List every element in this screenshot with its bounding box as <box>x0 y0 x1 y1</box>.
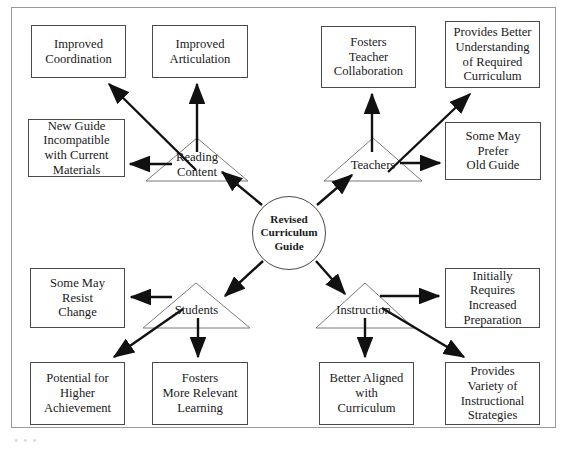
box-fosters-more-relevant-learning-label: FostersMore RelevantLearning <box>156 371 244 415</box>
box-improved-coordination-label: ImprovedCoordination <box>35 37 122 66</box>
box-fosters-more-relevant-learning: FostersMore RelevantLearning <box>152 362 248 425</box>
box-some-may-prefer-old-guide: Some MayPreferOld Guide <box>445 122 541 180</box>
box-provides-better-understanding: Provides BetterUnderstandingof RequiredC… <box>445 21 540 88</box>
triangle-label-reading-content: ReadingContent <box>146 150 248 180</box>
box-better-aligned-with-curriculum: Better AlignedwithCurriculum <box>319 362 414 425</box>
box-new-guide-incompatible: New GuideIncompatiblewith CurrentMateria… <box>28 119 125 177</box>
triangle-label-teachers: Teachers <box>324 158 422 173</box>
box-potential-for-higher-achievement-label: Potential forHigherAchievement <box>34 371 121 415</box>
triangle-label-instruction: Instruction <box>313 303 414 318</box>
box-provides-variety-of-instructional-strategies-label: ProvidesVariety ofInstructionalStrategie… <box>449 364 536 423</box>
box-some-may-resist-change-label: Some MayResistChange <box>34 276 121 320</box>
center-node-label: RevisedCurriculumGuide <box>260 213 317 253</box>
box-provides-better-understanding-label: Provides BetterUnderstandingof RequiredC… <box>449 25 536 84</box>
box-fosters-teacher-collaboration-label: FostersTeacherCollaboration <box>325 35 412 79</box>
box-initially-requires-increased-preparation-label: InitiallyRequiresIncreasedPreparation <box>449 269 536 328</box>
diagram-canvas: RevisedCurriculumGuide ReadingContent Te… <box>0 0 568 452</box>
triangle-label-students: Students <box>143 303 250 318</box>
box-improved-articulation-label: ImprovedArticulation <box>156 37 244 66</box>
center-node-revised-curriculum-guide: RevisedCurriculumGuide <box>252 196 326 270</box>
box-potential-for-higher-achievement: Potential forHigherAchievement <box>30 362 125 425</box>
box-initially-requires-increased-preparation: InitiallyRequiresIncreasedPreparation <box>445 268 540 328</box>
box-provides-variety-of-instructional-strategies: ProvidesVariety ofInstructionalStrategie… <box>445 362 540 425</box>
box-improved-coordination: ImprovedCoordination <box>31 25 126 78</box>
box-fosters-teacher-collaboration: FostersTeacherCollaboration <box>321 26 416 88</box>
box-some-may-prefer-old-guide-label: Some MayPreferOld Guide <box>449 129 537 173</box>
box-new-guide-incompatible-label: New GuideIncompatiblewith CurrentMateria… <box>32 119 121 178</box>
box-better-aligned-with-curriculum-label: Better AlignedwithCurriculum <box>323 371 410 415</box>
box-some-may-resist-change: Some MayResistChange <box>30 268 125 328</box>
box-improved-articulation: ImprovedArticulation <box>152 25 248 78</box>
scan-artifact-text: • • • <box>14 434 194 450</box>
